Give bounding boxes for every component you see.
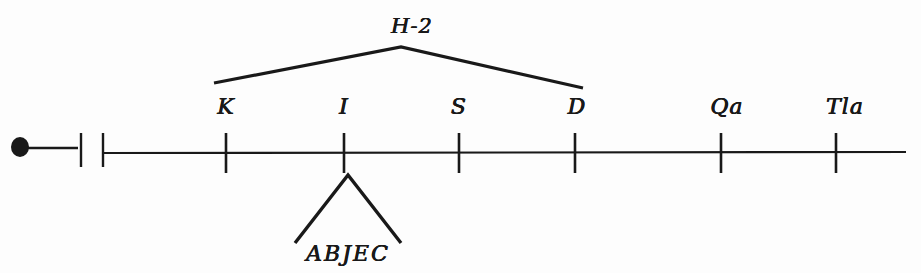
tick-label-d: D [568, 96, 587, 118]
tick-label-qa: Qa [710, 96, 743, 118]
bracket-upper-label: H-2 [391, 16, 433, 37]
tick-label-i: I [339, 96, 349, 118]
figure-canvas: K I S D Qa Tla H-2 ABJEC [0, 0, 921, 273]
bracket-lower-label: ABJEC [306, 243, 390, 265]
axis-terminal-dot [11, 137, 29, 157]
tick-label-tla: Tla [826, 96, 864, 118]
tick-label-k: K [217, 96, 234, 118]
tick-label-s: S [451, 96, 467, 118]
diagram-vector-layer [0, 0, 921, 273]
bracket-upper-shape [214, 47, 583, 88]
bracket-lower-shape [295, 175, 401, 243]
horizontal-timeline-axis [103, 152, 906, 153]
